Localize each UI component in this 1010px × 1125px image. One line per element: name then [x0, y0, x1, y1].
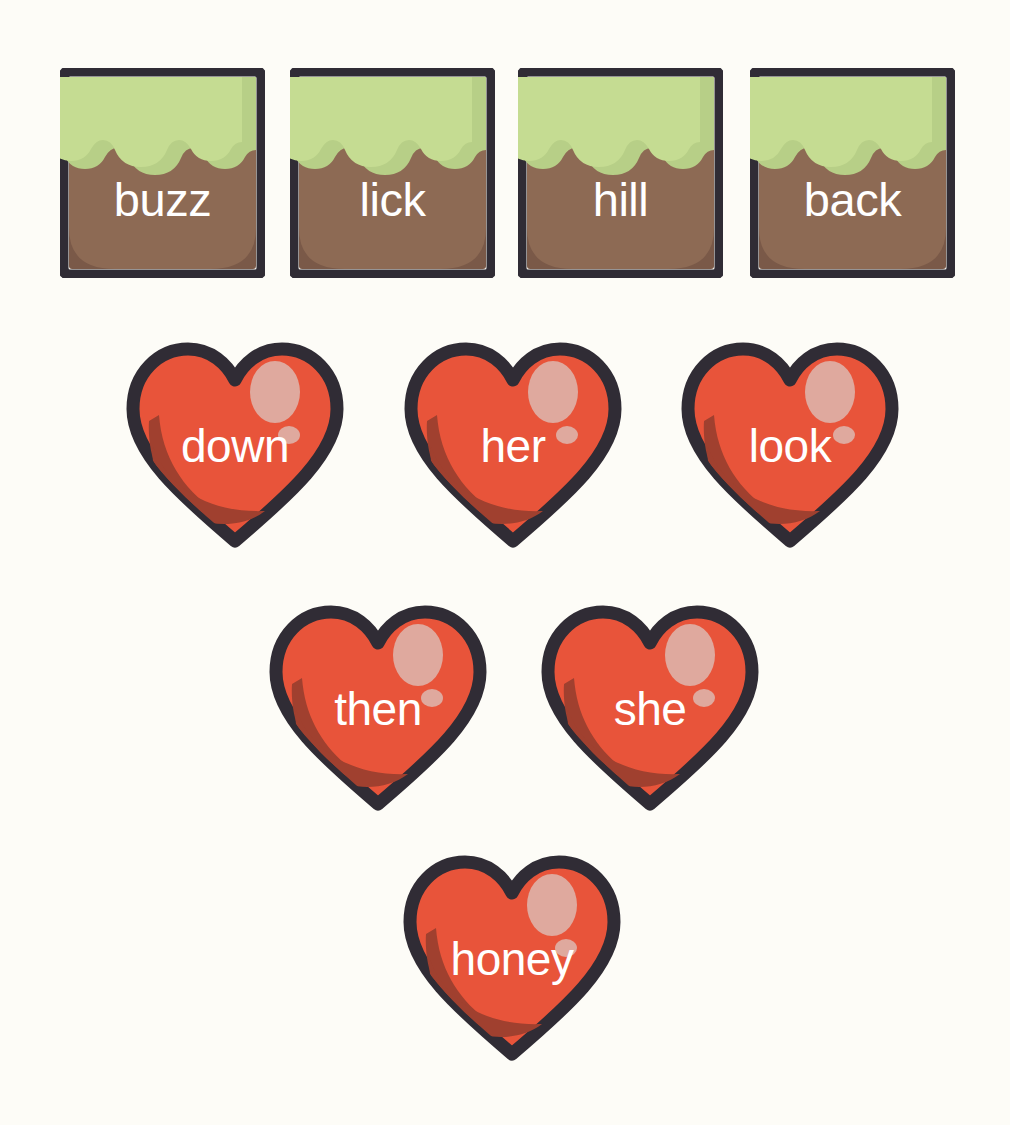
- heart-icon: [262, 598, 494, 814]
- word-card-board: buzz lick hill: [0, 0, 1010, 1125]
- hill-tile-icon: [518, 68, 723, 278]
- word-heart-down[interactable]: down: [119, 335, 351, 551]
- heart-icon: [534, 598, 766, 814]
- word-tile-back[interactable]: back: [750, 68, 955, 278]
- word-tile-hill[interactable]: hill: [518, 68, 723, 278]
- heart-icon: [396, 848, 628, 1064]
- hill-tile-icon: [60, 68, 265, 278]
- word-heart-look[interactable]: look: [674, 335, 906, 551]
- word-heart-she[interactable]: she: [534, 598, 766, 814]
- hill-tile-icon: [750, 68, 955, 278]
- heart-icon: [674, 335, 906, 551]
- heart-icon: [119, 335, 351, 551]
- word-tile-buzz[interactable]: buzz: [60, 68, 265, 278]
- word-heart-honey[interactable]: honey: [396, 848, 628, 1064]
- word-heart-her[interactable]: her: [397, 335, 629, 551]
- word-tile-lick[interactable]: lick: [290, 68, 495, 278]
- heart-icon: [397, 335, 629, 551]
- hill-tile-icon: [290, 68, 495, 278]
- word-heart-then[interactable]: then: [262, 598, 494, 814]
